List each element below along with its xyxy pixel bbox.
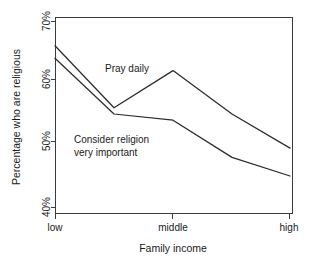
series-line-pray-daily	[55, 46, 290, 148]
series-label-consider-religion-line2: very important	[74, 147, 138, 158]
chart-figure: 70% 60% 50% 40% low middle high Percenta…	[0, 0, 310, 260]
x-tick-label-low: low	[47, 222, 63, 233]
line-chart-canvas: 70% 60% 50% 40% low middle high Percenta…	[0, 0, 310, 260]
y-tick-label-70: 70%	[41, 11, 52, 31]
y-axis-title: Percentage who are religious	[10, 49, 22, 185]
y-tick-label-50: 50%	[41, 131, 52, 151]
series-line-consider-religion	[55, 58, 290, 176]
x-axis-ticks	[56, 214, 290, 219]
x-tick-label-high: high	[280, 222, 299, 233]
x-axis-title: Family income	[139, 242, 207, 254]
series-label-pray-daily: Pray daily	[105, 63, 149, 74]
y-tick-label-60: 60%	[41, 69, 52, 89]
x-axis-tick-labels: low middle high	[47, 222, 298, 233]
y-axis-tick-labels: 70% 60% 50% 40%	[41, 11, 52, 217]
y-tick-label-40: 40%	[41, 197, 52, 217]
series-label-consider-religion-line1: Consider religion	[74, 134, 149, 145]
y-axis-ticks	[51, 22, 56, 208]
plot-frame	[56, 18, 293, 214]
x-tick-label-middle: middle	[158, 222, 188, 233]
